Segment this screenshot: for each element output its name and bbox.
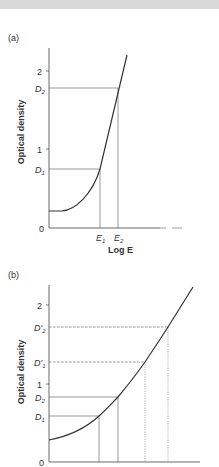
panel-a-label: (a) [8, 33, 19, 43]
panel-a-curve [49, 55, 127, 211]
panel-b-marker-d1-prime: D'1 [34, 358, 46, 369]
panel-a-xlabel: Log E [108, 245, 133, 255]
panel-b-marker-d1: D1 [35, 412, 45, 423]
panel-a-marker-e2: E2 [114, 233, 124, 244]
characteristic-curve-figure: (a) 2 1 0 D2 D1 E1 E2 Log E Optical dens… [0, 0, 219, 467]
panel-b-ytick-2: 2 [37, 301, 42, 311]
panel-a: (a) 2 1 0 D2 D1 E1 E2 Log E Optical dens… [8, 33, 182, 255]
panel-a-marker-e1: E1 [96, 233, 105, 244]
panel-b-marker-d2-prime: D'2 [34, 323, 46, 334]
panel-a-ytick-1: 1 [37, 145, 42, 155]
panel-a-ylabel: Optical density [16, 100, 26, 165]
panel-b-curve [49, 287, 193, 440]
panel-b-ylabel: Optical density [16, 340, 26, 405]
panel-b: (b) 2 1 0 D'2 D'1 D2 D1 Optical density [8, 270, 200, 467]
panel-a-marker-d2: D2 [35, 84, 46, 95]
panel-a-ytick-2: 2 [37, 67, 42, 77]
panel-b-ytick-0: 0 [39, 458, 44, 467]
panel-b-marker-d2: D2 [35, 393, 46, 404]
panel-b-label: (b) [8, 270, 19, 280]
panel-b-ytick-1: 1 [37, 380, 42, 390]
panel-a-marker-d1: D1 [35, 165, 45, 176]
panel-a-ytick-0: 0 [39, 224, 44, 234]
